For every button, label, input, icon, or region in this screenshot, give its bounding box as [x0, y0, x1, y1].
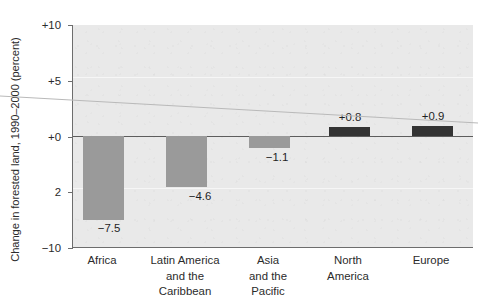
category-label-europe: Europe [413, 253, 450, 269]
value-label-asia-and-the-pacific: −1.1 [266, 151, 289, 163]
bar-europe[interactable] [412, 126, 453, 136]
tick-label-plus5: +5 [48, 75, 61, 87]
tick-mark-minus10: −10 [68, 248, 73, 249]
gridline-plus5 [73, 77, 473, 78]
value-label-africa: −7.5 [98, 222, 121, 234]
tick-mark-minus5: 2 [68, 192, 73, 193]
bar-africa[interactable] [83, 136, 124, 220]
bar-north-america[interactable] [329, 127, 370, 136]
axis-baseline [73, 247, 473, 248]
category-label-africa: Africa [87, 253, 116, 269]
tick-mark-zero: +0 [68, 137, 73, 138]
value-label-europe: +0.9 [422, 110, 445, 122]
plot-area: +10 +5 +0 2 −10 −7.5 −4.6 −1.1 +0.8 +0.9 [72, 25, 473, 248]
category-label-north-america: North America [327, 253, 369, 284]
tick-mark-plus5: +5 [68, 81, 73, 82]
value-label-north-america: +0.8 [339, 111, 362, 123]
tick-label-zero: +0 [48, 131, 61, 143]
tick-mark-plus10: +10 [68, 25, 73, 26]
y-axis-title: Change in forested land, 1990–2000 (perc… [0, 0, 30, 299]
category-label-asia-and-the-pacific: Asia and the Pacific [249, 253, 287, 299]
tick-label-minus5: 2 [55, 186, 61, 198]
tick-label-plus10: +10 [42, 19, 61, 31]
forested-land-change-bar-chart: Change in forested land, 1990–2000 (perc… [0, 0, 478, 299]
value-label-latin-america-and-the-caribbean: −4.6 [189, 190, 212, 202]
category-label-latin-america-and-the-caribbean: Latin America and the Caribbean [150, 253, 219, 299]
bar-asia-and-the-pacific[interactable] [249, 136, 290, 148]
gridline-minus5 [73, 188, 473, 189]
tick-label-minus10: −10 [42, 242, 61, 254]
bar-latin-america-and-the-caribbean[interactable] [166, 136, 207, 187]
